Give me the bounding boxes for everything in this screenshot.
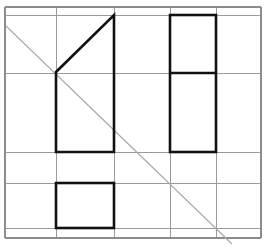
canvas-background bbox=[0, 0, 266, 248]
diagram-canvas bbox=[0, 0, 266, 248]
grid-figure bbox=[0, 0, 266, 248]
